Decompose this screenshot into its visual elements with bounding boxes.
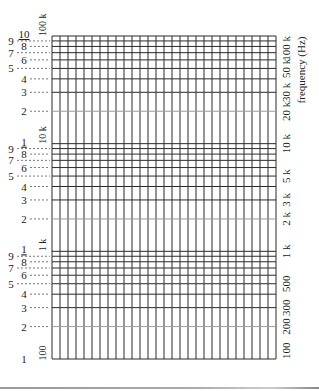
- left-digit-label: 2: [21, 321, 27, 333]
- left-decade-label: 100 k: [37, 14, 48, 37]
- left-digit-label: 4: [21, 288, 27, 300]
- left-digit-label: 5: [8, 278, 14, 290]
- left-digit-label: 7: [8, 154, 14, 166]
- right-tick-label: 1 k: [280, 244, 292, 258]
- left-digit-label: 7: [8, 47, 14, 59]
- right-tick-label: 500: [280, 275, 292, 292]
- right-axis-labels: 100 k50 k30 k20 k10 k5 k3 k2 k1 k5003002…: [280, 36, 292, 360]
- left-digit-label: 9: [8, 35, 14, 47]
- right-tick-label: 100: [280, 342, 292, 359]
- right-tick-label: 5 k: [280, 169, 292, 183]
- left-digit-label: 2: [21, 213, 27, 225]
- bottom-divider: [0, 387, 319, 389]
- left-digit-label: 8: [21, 40, 27, 52]
- vertical-gridlines: [52, 36, 276, 359]
- left-digit-label: 5: [8, 62, 14, 74]
- left-digit-label: 4: [21, 181, 27, 193]
- left-digit-label: 7: [8, 262, 14, 274]
- left-digit-label: 5: [8, 170, 14, 182]
- log-graph-paper-chart: 23456789234567892345678910011 k110 k1100…: [0, 0, 319, 391]
- right-tick-label: 2 k: [280, 212, 292, 226]
- left-digit-label: 1: [21, 243, 27, 255]
- left-digit-label: 2: [21, 105, 27, 117]
- left-digit-label: 8: [21, 148, 27, 160]
- right-tick-label: 200: [280, 318, 292, 335]
- left-digit-label: 6: [21, 54, 27, 66]
- left-digit-label: 10: [19, 28, 31, 40]
- left-decade-label: 100: [37, 346, 48, 361]
- right-tick-label: 300: [280, 299, 292, 316]
- right-tick-label: 10 k: [280, 134, 292, 154]
- left-digit-label: 1: [21, 353, 27, 365]
- right-tick-label: 50 k: [280, 58, 292, 78]
- right-tick-label: 20 k: [280, 101, 292, 121]
- left-digit-label: 3: [21, 86, 27, 98]
- right-tick-label: 100 k: [280, 36, 292, 61]
- left-axis-labels: 23456789234567892345678910011 k110 k1100…: [8, 14, 50, 366]
- right-tick-label: 30 k: [280, 82, 292, 102]
- left-digit-label: 3: [21, 302, 27, 314]
- left-digit-label: 9: [8, 250, 14, 262]
- left-digit-label: 6: [21, 269, 27, 281]
- left-decade-label: 1 k: [37, 239, 48, 252]
- right-tick-label: 3 k: [280, 193, 292, 207]
- left-digit-label: 4: [21, 73, 27, 85]
- left-digit-label: 8: [21, 256, 27, 268]
- left-digit-label: 3: [21, 194, 27, 206]
- left-digit-label: 6: [21, 162, 27, 174]
- left-decade-label: 10 k: [37, 126, 48, 144]
- left-digit-label: 1: [21, 136, 27, 148]
- left-digit-label: 9: [8, 143, 14, 155]
- y-axis-title: frequency (Hz): [295, 36, 308, 103]
